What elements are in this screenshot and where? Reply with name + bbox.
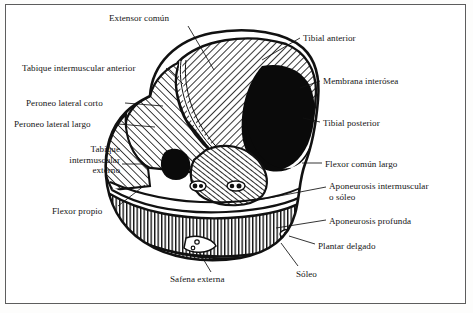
label-extensor-comun: Extensor común	[109, 13, 169, 24]
label-peroneo-lateral-largo: Peroneo lateral largo	[14, 119, 91, 130]
label-flexor-comun-largo: Flexor común largo	[325, 159, 397, 170]
label-plantar-delgado: Plantar delgado	[318, 241, 376, 252]
label-peroneo-lateral-corto: Peroneo lateral corto	[26, 98, 103, 109]
label-tibial-posterior: Tibial posterior	[323, 118, 380, 129]
label-flexor-propio: Flexor propio	[52, 206, 102, 217]
anatomy-figure: Extensor común Tibial anterior Tabique i…	[0, 0, 473, 313]
label-aponeurosis-profunda: Aponeurosis profunda	[329, 216, 411, 227]
label-tibial-anterior: Tibial anterior	[303, 33, 356, 44]
label-safena-externa: Safena externa	[170, 274, 224, 285]
label-membrana-interosea: Membrana interósea	[323, 76, 398, 87]
label-tabique-intermuscular-externo: Tabique intermuscular externo	[28, 144, 120, 176]
label-aponeurosis-intermuscular-o-soleo: Aponeurosis intermuscular o sóleo	[329, 181, 429, 202]
label-soleo: Sóleo	[296, 269, 317, 280]
label-tabique-intermuscular-anterior: Tabique intermuscular anterior	[22, 63, 135, 74]
